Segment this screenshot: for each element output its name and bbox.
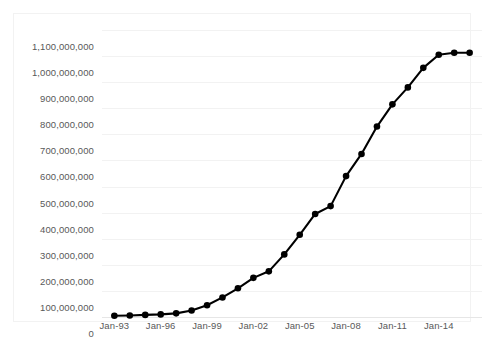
data-point-marker xyxy=(142,312,149,319)
line-series xyxy=(102,30,482,317)
y-axis-tick-label: 500,000,000 xyxy=(40,197,94,208)
data-point-marker xyxy=(420,65,427,72)
data-point-marker xyxy=(157,311,164,318)
data-point-marker xyxy=(405,84,412,91)
data-point-marker xyxy=(374,123,381,130)
data-point-marker xyxy=(188,307,195,314)
y-axis-tick-label: 200,000,000 xyxy=(40,275,94,286)
y-axis-tick-label: 900,000,000 xyxy=(40,93,94,104)
x-axis-tick-label: Jan-99 xyxy=(192,320,222,331)
y-axis-tick-label: 700,000,000 xyxy=(40,145,94,156)
data-point-marker xyxy=(250,275,257,282)
data-point-marker xyxy=(281,251,288,258)
y-axis-tick-label: 0 xyxy=(89,328,94,339)
x-axis-tick-label: Jan-93 xyxy=(100,320,130,331)
x-axis-tick-label: Jan-96 xyxy=(146,320,176,331)
data-point-marker xyxy=(127,312,134,319)
x-axis-tick-label: Jan-05 xyxy=(285,320,315,331)
data-point-marker xyxy=(266,268,273,275)
data-point-marker xyxy=(235,285,242,292)
data-point-marker xyxy=(111,312,118,319)
data-point-marker xyxy=(343,173,350,180)
y-axis-tick-label: 100,000,000 xyxy=(40,301,94,312)
x-axis-tick-labels: Jan-93Jan-96Jan-99Jan-02Jan-05Jan-08Jan-… xyxy=(102,320,482,338)
data-point-marker xyxy=(389,101,396,108)
data-point-marker xyxy=(296,232,303,239)
y-axis-tick-label: 800,000,000 xyxy=(40,119,94,130)
x-axis-tick-label: Jan-02 xyxy=(239,320,269,331)
data-point-marker xyxy=(466,49,473,56)
data-point-marker xyxy=(358,151,365,158)
y-axis-tick-label: 300,000,000 xyxy=(40,249,94,260)
y-axis-tick-label: 600,000,000 xyxy=(40,171,94,182)
x-axis-tick-label: Jan-11 xyxy=(378,320,407,331)
data-point-marker xyxy=(219,294,226,301)
y-axis-tick-labels: 0100,000,000200,000,000300,000,000400,00… xyxy=(27,30,99,317)
data-point-marker xyxy=(312,211,319,218)
x-axis-tick-label: Jan-14 xyxy=(424,320,454,331)
data-point-marker xyxy=(435,51,442,58)
y-axis-tick-label: 1,000,000,000 xyxy=(32,67,94,78)
data-point-marker xyxy=(173,310,180,317)
y-axis-tick-label: 1,100,000,000 xyxy=(32,41,94,52)
chart-frame: 0100,000,000200,000,000300,000,000400,00… xyxy=(13,13,471,322)
plot-area xyxy=(102,30,482,317)
x-axis-tick-label: Jan-08 xyxy=(331,320,361,331)
series-line xyxy=(114,53,469,316)
chart-container: 0100,000,000200,000,000300,000,000400,00… xyxy=(0,0,486,347)
data-point-marker xyxy=(451,49,458,56)
data-point-marker xyxy=(204,302,211,309)
y-axis-tick-label: 400,000,000 xyxy=(40,223,94,234)
data-point-marker xyxy=(327,203,334,210)
